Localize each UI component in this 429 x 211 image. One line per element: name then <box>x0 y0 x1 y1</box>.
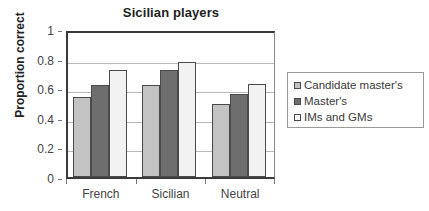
bar <box>73 97 91 177</box>
x-axis-category-labels: FrenchSicilianNeutral <box>66 187 275 205</box>
bar <box>248 84 266 177</box>
bar <box>109 70 127 177</box>
legend-label: Master's <box>304 96 347 108</box>
bar-group <box>207 33 277 177</box>
x-axis-tick <box>66 179 67 184</box>
y-axis-tick <box>58 120 62 121</box>
bar-group <box>138 33 208 177</box>
legend-swatch-icon <box>294 114 301 121</box>
y-axis-tick-label: 0 <box>47 172 54 186</box>
x-axis-tick <box>205 179 206 184</box>
y-axis-tick <box>58 90 62 91</box>
bar <box>212 104 230 177</box>
legend-swatch-icon <box>294 98 301 105</box>
y-axis-tick-label: 0.4 <box>37 113 54 127</box>
bar <box>142 85 160 177</box>
x-axis-ticks <box>66 179 275 185</box>
x-axis-tick <box>274 179 275 184</box>
y-axis-tick-labels: 00.20.40.60.81 <box>0 31 62 179</box>
y-axis-tick-label: 0.6 <box>37 83 54 97</box>
bar-group <box>68 33 138 177</box>
legend-item: Master's <box>294 94 419 109</box>
y-axis-tick-label: 0.2 <box>37 142 54 156</box>
bar <box>91 85 109 177</box>
legend-label: Candidate master's <box>304 80 403 92</box>
legend-item: IMs and GMs <box>294 110 419 125</box>
x-axis-category-label: Neutral <box>221 187 260 201</box>
legend-label: IMs and GMs <box>304 112 372 124</box>
plot-area <box>66 31 275 179</box>
bar <box>178 62 196 177</box>
y-axis-tick-label: 0.8 <box>37 54 54 68</box>
chart-title: Sicilian players <box>66 5 276 20</box>
bar-chart: Sicilian players Proportion correct 00.2… <box>0 0 429 211</box>
x-axis-category-label: Sicilian <box>151 187 189 201</box>
y-axis-tick <box>58 61 62 62</box>
legend: Candidate master'sMaster'sIMs and GMs <box>287 72 424 128</box>
y-axis-tick <box>58 179 62 180</box>
bar <box>230 94 248 177</box>
legend-swatch-icon <box>294 82 301 89</box>
y-axis-tick <box>58 149 62 150</box>
x-axis-category-label: French <box>82 187 119 201</box>
y-axis-tick <box>58 31 62 32</box>
y-axis-tick-label: 1 <box>47 24 54 38</box>
x-axis-tick <box>136 179 137 184</box>
bar <box>160 70 178 177</box>
legend-item: Candidate master's <box>294 78 419 93</box>
bars-layer <box>68 33 274 177</box>
